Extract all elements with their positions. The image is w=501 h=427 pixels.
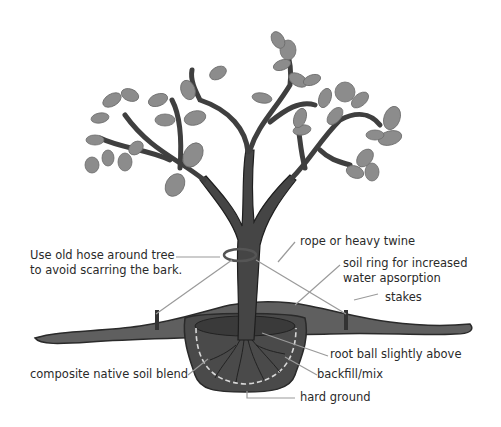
- root-ball-label: root ball slightly above: [330, 347, 462, 361]
- tree-planting-illustration: [0, 0, 501, 427]
- soil-ring-label-line1: soil ring for increased: [343, 256, 467, 270]
- hose-label-line1: Use old hose around tree: [30, 248, 175, 262]
- backfill-label: backfill/mix: [317, 367, 383, 381]
- soil-ring-label-line2: water apsorption: [343, 271, 441, 285]
- hose-label-line2: to avoid scarring the bark.: [30, 263, 182, 277]
- rope-label: rope or heavy twine: [300, 234, 415, 248]
- hard-ground-label: hard ground: [300, 390, 371, 404]
- composite-label: composite native soil blend: [30, 367, 188, 381]
- stakes-label: stakes: [385, 290, 422, 304]
